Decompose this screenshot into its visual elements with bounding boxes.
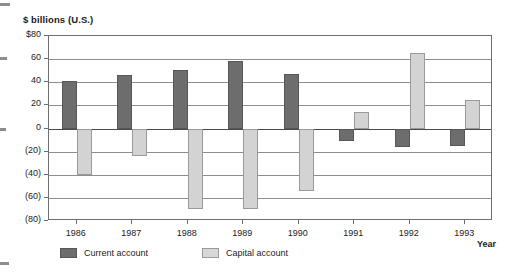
bar-current-account-1988 (173, 70, 188, 129)
bar-current-account-1993 (450, 129, 465, 146)
bar-capital-account-1993 (465, 100, 480, 129)
x-axis-tick (76, 220, 77, 224)
y-axis-tick-label: 0 (36, 122, 41, 132)
bar-current-account-1989 (228, 61, 243, 128)
gridline (49, 198, 491, 199)
x-axis-title: Year (477, 239, 496, 249)
gridline (49, 175, 491, 176)
bar-capital-account-1987 (132, 129, 147, 157)
legend-label: Capital account (226, 248, 288, 258)
x-axis-tick-label: 1988 (162, 228, 212, 238)
plot-area (48, 35, 492, 220)
dark-gray-swatch-icon (60, 248, 77, 258)
scan-artifact-mark (0, 3, 10, 6)
bar-current-account-1987 (117, 75, 132, 128)
x-axis-tick-label: 1990 (273, 228, 323, 238)
chart-legend: Current account Capital account (60, 248, 288, 258)
scan-artifact-mark (0, 262, 9, 265)
y-axis-tick-label: (80) (25, 214, 41, 224)
legend-item-current-account: Current account (60, 248, 148, 258)
bar-current-account-1991 (339, 129, 354, 142)
y-axis-tick-label: 20 (31, 98, 41, 108)
bar-capital-account-1992 (410, 53, 425, 128)
x-axis-tick (298, 220, 299, 224)
x-axis-tick-label: 1991 (328, 228, 378, 238)
light-gray-swatch-icon (202, 248, 219, 258)
bar-current-account-1990 (284, 74, 299, 128)
gridline (49, 152, 491, 153)
chart-figure: $ billions (U.S.) $806040200(20)(40)(60)… (0, 0, 510, 272)
y-axis-tick-label: (40) (25, 168, 41, 178)
x-axis-tick-label: 1987 (106, 228, 156, 238)
y-axis-title: $ billions (U.S.) (23, 14, 93, 25)
x-axis-tick (409, 220, 410, 224)
legend-label: Current account (84, 248, 148, 258)
x-axis-tick (242, 220, 243, 224)
scan-artifact-mark (0, 128, 6, 131)
y-axis-tick-label: (60) (25, 191, 41, 201)
x-axis-tick (464, 220, 465, 224)
scan-artifact-mark (0, 57, 7, 60)
x-axis-tick-label: 1993 (439, 228, 489, 238)
bar-capital-account-1990 (299, 129, 314, 191)
y-axis-tick (44, 220, 48, 221)
x-axis-tick-label: 1986 (51, 228, 101, 238)
bar-capital-account-1991 (354, 112, 369, 128)
x-axis-tick (187, 220, 188, 224)
zero-line (49, 129, 491, 130)
x-axis-tick (131, 220, 132, 224)
bar-current-account-1992 (395, 129, 410, 148)
y-axis-tick-label: (20) (25, 145, 41, 155)
x-axis-tick (353, 220, 354, 224)
bar-capital-account-1989 (243, 129, 258, 210)
bar-capital-account-1988 (188, 129, 203, 210)
y-axis-tick-label: 40 (31, 75, 41, 85)
y-axis-tick-label: $80 (26, 29, 41, 39)
legend-item-capital-account: Capital account (202, 248, 288, 258)
bar-capital-account-1986 (77, 129, 92, 175)
y-axis-tick-label: 60 (31, 52, 41, 62)
x-axis-tick-label: 1989 (217, 228, 267, 238)
x-axis-tick-label: 1992 (384, 228, 434, 238)
bar-current-account-1986 (62, 81, 77, 128)
